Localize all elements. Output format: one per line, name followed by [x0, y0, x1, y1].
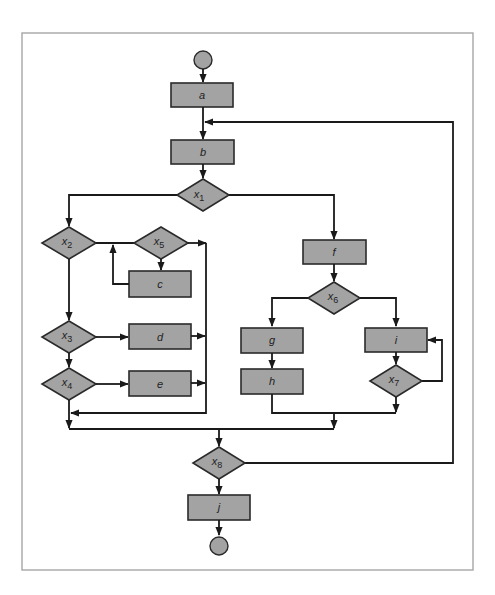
- process-c-label: c: [157, 278, 163, 290]
- diagram-frame: [22, 33, 473, 570]
- process-a: a: [171, 83, 233, 107]
- process-i: i: [365, 328, 427, 352]
- decision-x6: x6: [308, 282, 360, 314]
- decision-x4: x4: [42, 368, 96, 400]
- edge-x1-x2: [69, 195, 177, 226]
- decision-x7: x7: [370, 365, 422, 397]
- process-g-label: g: [269, 334, 276, 346]
- decision-x2: x2: [42, 227, 96, 259]
- decision-x3: x3: [42, 321, 96, 353]
- process-e: e: [129, 371, 191, 396]
- decision-x8: x8: [193, 447, 245, 479]
- start-terminal: [194, 51, 212, 69]
- decision-x1: x1: [177, 179, 229, 211]
- process-j: j: [188, 495, 250, 520]
- process-d-label: d: [157, 331, 164, 343]
- process-h: h: [241, 369, 303, 394]
- process-g: g: [241, 328, 303, 353]
- edge-x1-f: [229, 195, 334, 239]
- process-f: f: [303, 240, 366, 264]
- flowchart-diagram: a b x1 x2 x5 c x3 d: [0, 0, 495, 595]
- process-b: b: [171, 140, 234, 164]
- process-a-label: a: [199, 89, 205, 101]
- end-terminal: [210, 537, 228, 555]
- process-e-label: e: [157, 378, 163, 390]
- edge-c-loop: [113, 245, 129, 284]
- process-c: c: [129, 271, 191, 297]
- edge-x6-g: [272, 298, 308, 326]
- edge-h-merge: [272, 394, 396, 413]
- process-b-label: b: [200, 146, 206, 158]
- decision-x5: x5: [134, 227, 188, 259]
- process-h-label: h: [269, 375, 275, 387]
- process-d: d: [129, 324, 191, 349]
- edge-x6-i: [360, 298, 396, 326]
